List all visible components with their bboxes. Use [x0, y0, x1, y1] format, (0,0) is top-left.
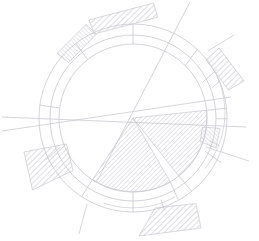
pie-slices [93, 110, 207, 191]
diagram-canvas [0, 0, 259, 241]
line-lower-right-tick [206, 147, 249, 161]
spoke-6 [40, 105, 60, 108]
ring-seg-top [89, 3, 158, 34]
spoke-2 [170, 182, 178, 200]
radial-pie-figure [0, 0, 259, 241]
spoke-4 [82, 180, 93, 197]
line-bottom-left-tick [79, 204, 87, 234]
ring-seg-right-lower [200, 127, 220, 148]
ring-seg-right-upper [206, 48, 244, 90]
sub-spoke-a [212, 81, 219, 87]
spoke-0 [207, 108, 227, 110]
sub-ring-arc-right [205, 76, 225, 169]
ring-seg-bottom [139, 204, 201, 237]
line-right-upper-tick [208, 35, 234, 51]
